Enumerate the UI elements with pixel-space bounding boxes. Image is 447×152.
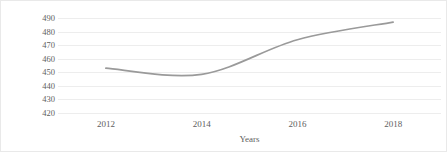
x-axis-title: Years bbox=[58, 133, 441, 145]
x-axis-tick-label: 2014 bbox=[193, 117, 211, 131]
y-axis-tick-label: 440 bbox=[27, 82, 55, 91]
y-axis-tick-label: 420 bbox=[27, 109, 55, 118]
y-axis-tick-label: 460 bbox=[27, 54, 55, 63]
plot-area bbox=[58, 18, 441, 113]
y-axis-tick-label: 470 bbox=[27, 41, 55, 50]
series-path bbox=[106, 22, 393, 76]
y-axis-tick-label: 450 bbox=[27, 68, 55, 77]
y-axis-tick-label: 490 bbox=[27, 14, 55, 23]
y-axis-tick-labels: 420430440450460470480490 bbox=[27, 12, 55, 114]
x-axis-tick-label: 2016 bbox=[288, 117, 306, 131]
line-chart: Kilogram Per capita 42043044045046047048… bbox=[0, 0, 447, 152]
x-axis-tick-labels: 2012201420162018 bbox=[58, 117, 441, 131]
series-line-kilogram-per-capita bbox=[58, 18, 441, 113]
x-axis-tick-label: 2012 bbox=[97, 117, 115, 131]
y-axis-tick-label: 480 bbox=[27, 27, 55, 36]
gridline bbox=[58, 113, 441, 114]
x-axis-tick-label: 2018 bbox=[384, 117, 402, 131]
y-axis-tick-label: 430 bbox=[27, 95, 55, 104]
